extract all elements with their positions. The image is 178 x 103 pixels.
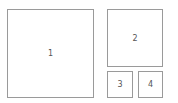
panel-1-label: 1	[48, 49, 53, 58]
panel-4-label: 4	[148, 80, 153, 89]
panel-3: 3	[107, 71, 133, 98]
panel-2-label: 2	[132, 34, 137, 43]
panel-2: 2	[107, 9, 163, 67]
panel-3-label: 3	[117, 80, 122, 89]
panel-1: 1	[7, 9, 94, 98]
panel-4: 4	[138, 71, 163, 98]
